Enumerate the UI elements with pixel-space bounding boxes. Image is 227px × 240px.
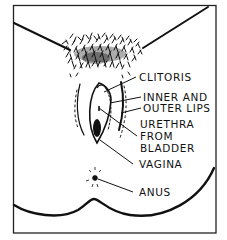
label-bladder: BLADDER [140, 142, 195, 154]
label-from: FROM [140, 130, 173, 142]
leader-lines [98, 77, 141, 192]
clitoris-icon [97, 85, 106, 88]
pubic-hair-dense [74, 46, 126, 64]
label-urethra: URETHRA [140, 118, 194, 130]
label-outer-lips: OUTER LIPS [143, 102, 211, 114]
label-anus: ANUS [139, 186, 171, 198]
label-vagina: VAGINA [139, 158, 183, 170]
anatomy-diagram: CLITORIS INNER AND OUTER LIPS URETHRA FR… [0, 0, 227, 240]
vaginal-opening-icon [93, 119, 101, 137]
label-clitoris: CLITORIS [139, 71, 192, 83]
anus-icon [86, 167, 101, 187]
vulva-outline [75, 82, 126, 143]
labels: CLITORIS INNER AND OUTER LIPS URETHRA FR… [139, 71, 211, 198]
